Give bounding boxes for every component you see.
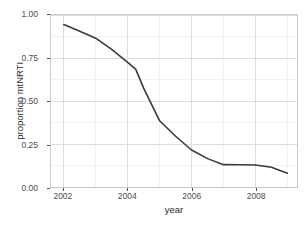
y-tick-label: 0.25 [21,140,38,149]
x-tick-label: 2008 [247,192,266,201]
plot-panel [50,14,298,188]
chart-figure: proportion mtNRTI 0.000.250.500.751.00 2… [0,0,308,228]
series-line-proportion-mtnrti [51,15,297,187]
x-axis-title: year [50,205,298,215]
y-tick-label: 0.50 [21,97,38,106]
y-tick-label: 0.75 [21,53,38,62]
y-tick-label: 1.00 [21,10,38,19]
x-tick-label: 2002 [53,192,72,201]
x-tick-label: 2006 [182,192,201,201]
x-tick-label: 2004 [118,192,137,201]
y-tick-label: 0.00 [21,184,38,193]
y-axis-tick-labels: 0.000.250.500.751.00 [0,14,44,188]
